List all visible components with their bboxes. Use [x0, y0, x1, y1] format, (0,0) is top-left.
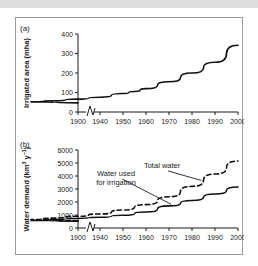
- x-tick-label: 1970: [161, 234, 177, 241]
- y-axis-title-text: Irrigated area (mha): [22, 37, 31, 108]
- y-tick-label: 0: [69, 225, 73, 232]
- y-tick-label: 100: [61, 89, 73, 96]
- chart-b-svg: (b)0100020003000400050006000190019401950…: [16, 136, 244, 254]
- y-tick-label: 6000: [57, 147, 73, 154]
- annotation-label-water-used-line2: for irrigation: [96, 178, 136, 187]
- x-tick-label: 1990: [207, 234, 223, 241]
- axis-break-symbol: [87, 222, 95, 232]
- x-tick-label: 1960: [138, 118, 154, 125]
- x-tick-label: 1980: [184, 118, 200, 125]
- x-tick-label: 1950: [115, 118, 131, 125]
- x-tick-label: 2000: [230, 234, 244, 241]
- x-tick-label: 1970: [161, 118, 177, 125]
- chart-panel-a: (a)0100200300400190019401950196019701980…: [16, 20, 244, 138]
- y-axis-title: Water demand (km3 y−1): [21, 146, 31, 231]
- x-tick-label: 1940: [92, 118, 108, 125]
- top-gray-band: [0, 0, 258, 8]
- y-tick-label: 200: [61, 70, 73, 77]
- y-tick-label: 400: [61, 31, 73, 38]
- y-axis-title: Irrigated area (mha): [22, 37, 31, 108]
- x-tick-label: 1940: [92, 234, 108, 241]
- y-tick-label: 3000: [57, 186, 73, 193]
- x-tick-label: 1900: [70, 234, 86, 241]
- axis-break-symbol: [87, 106, 95, 116]
- x-tick-label: 1950: [115, 234, 131, 241]
- x-tick-label: 1900: [70, 118, 86, 125]
- figure-frame: (a)0100200300400190019401950196019701980…: [15, 17, 243, 255]
- annotation-label-total-water: Total water: [144, 161, 181, 170]
- annotation-label-water-used: Water used: [97, 169, 135, 178]
- x-tick-label: 1990: [207, 118, 223, 125]
- y-tick-label: 300: [61, 50, 73, 57]
- y-tick-label: 5000: [57, 160, 73, 167]
- x-tick-label: 2000: [230, 118, 244, 125]
- chart-panel-b: (b)0100020003000400050006000190019401950…: [16, 136, 244, 254]
- x-tick-label: 1960: [138, 234, 154, 241]
- chart-a-svg: (a)0100200300400190019401950196019701980…: [16, 20, 244, 138]
- y-tick-label: 4000: [57, 173, 73, 180]
- y-tick-label: 2000: [57, 199, 73, 206]
- annotation-leader-total-water: [168, 171, 201, 181]
- y-tick-label: 0: [69, 109, 73, 116]
- x-tick-label: 1980: [184, 234, 200, 241]
- y-axis-title-text: Water demand (km3 y−1): [21, 146, 31, 231]
- panel-a-tag: (a): [20, 24, 30, 33]
